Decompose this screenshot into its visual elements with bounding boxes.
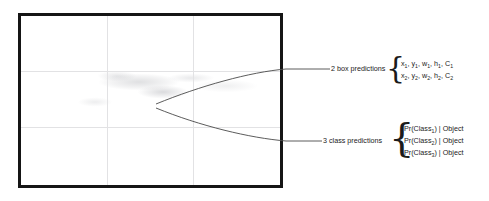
class-predictions-values: Pr(Class1) | Object Pr(Class2) | Object … xyxy=(404,123,463,159)
box-prediction-row: x1, y1, w1, h1, C1 xyxy=(401,58,453,70)
grid-line-vertical-2 xyxy=(193,16,194,185)
input-image-with-grid xyxy=(18,13,283,188)
yolo-prediction-figure: 2 box predictions { x1, y1, w1, h1, C1 x… xyxy=(0,0,489,201)
class-prediction-row: Pr(Class2) | Object xyxy=(404,135,463,147)
box-predictions-values: x1, y1, w1, h1, C1 x2, y2, w2, h2, C2 xyxy=(401,58,453,82)
class-predictions-label: 3 class predictions xyxy=(323,137,382,144)
grid-line-horizontal-1 xyxy=(21,71,280,72)
box-predictions-label: 2 box predictions xyxy=(331,65,385,72)
grid-line-vertical-1 xyxy=(107,16,108,185)
class-prediction-row: Pr(Class1) | Object xyxy=(404,123,463,135)
grid-line-horizontal-2 xyxy=(21,127,280,128)
box-prediction-row: x2, y2, w2, h2, C2 xyxy=(401,70,453,82)
input-image-photo xyxy=(21,16,280,185)
class-prediction-row: Pr(Class3) | Object xyxy=(404,147,463,159)
